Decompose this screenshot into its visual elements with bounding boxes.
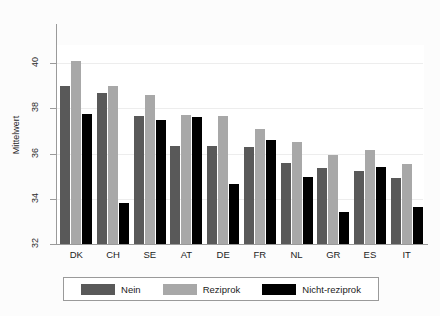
bar (266, 140, 276, 244)
bar (339, 212, 349, 244)
bar (244, 147, 254, 244)
bar-group (134, 45, 166, 244)
x-axis-line (56, 244, 428, 245)
legend-swatch (81, 284, 115, 295)
y-tick-label: 34 (30, 187, 40, 209)
legend-label: Reziprok (203, 284, 241, 295)
legend-label: Nein (121, 284, 141, 295)
bar (391, 178, 401, 244)
category-label: IT (387, 249, 427, 260)
y-tick-label: 40 (30, 51, 40, 73)
category-label: DK (56, 249, 96, 260)
bar (170, 146, 180, 244)
bar-group (60, 45, 92, 244)
category-label: SE (130, 249, 170, 260)
legend-entry: Nein (81, 284, 141, 295)
bar (156, 120, 166, 244)
legend-swatch (262, 284, 296, 295)
bar (60, 86, 70, 244)
bar (145, 95, 155, 244)
category-label: NL (277, 249, 317, 260)
bar (303, 177, 313, 244)
bar (134, 116, 144, 244)
bar (218, 116, 228, 244)
y-tick-label: 32 (30, 232, 40, 254)
bar (97, 93, 107, 245)
bar-group (354, 45, 386, 244)
y-tick-label: 36 (30, 142, 40, 164)
bar (192, 117, 202, 244)
bar (229, 184, 239, 244)
bar (71, 61, 81, 244)
bar-group (391, 45, 423, 244)
legend-label: Nicht-reziprok (302, 284, 361, 295)
bar (328, 155, 338, 244)
bar-group (281, 45, 313, 244)
bar (255, 129, 265, 244)
bar (354, 171, 364, 244)
legend-entry: Nicht-reziprok (262, 284, 361, 295)
bar (365, 150, 375, 244)
bar (292, 142, 302, 244)
bar-group (317, 45, 349, 244)
bar-groups (57, 45, 424, 244)
legend-entry: Reziprok (163, 284, 241, 295)
category-label: CH (93, 249, 133, 260)
bar-group (207, 45, 239, 244)
category-label: GR (313, 249, 353, 260)
bar (402, 164, 412, 244)
category-label: ES (350, 249, 390, 260)
y-tick-label: 38 (30, 96, 40, 118)
y-axis-title: Mittelwert (11, 100, 21, 170)
chart-legend: NeinReziprokNicht-reziprok (63, 277, 379, 301)
bar-group (244, 45, 276, 244)
category-label: AT (166, 249, 206, 260)
bar (281, 163, 291, 244)
bar (119, 203, 129, 244)
bar-group (170, 45, 202, 244)
bar (108, 86, 118, 244)
category-label: DE (203, 249, 243, 260)
bar (207, 146, 217, 244)
bar (376, 167, 386, 244)
legend-swatch (163, 284, 197, 295)
category-label: FR (240, 249, 280, 260)
bar-group (97, 45, 129, 244)
bar (82, 114, 92, 244)
bar (317, 168, 327, 244)
chart-figure: 3234363840 Mittelwert DKCHSEATDEFRNLGRES… (0, 0, 440, 316)
bar (413, 207, 423, 244)
bar (181, 115, 191, 244)
